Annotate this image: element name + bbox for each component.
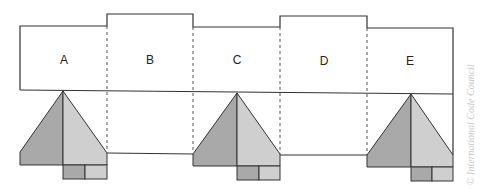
section-label-e: E — [406, 54, 414, 68]
copyright-credit: © International Code Council — [465, 64, 476, 185]
unit-c-shape — [193, 93, 280, 180]
lower-edge-b — [107, 153, 193, 154]
building-plan-diagram: A B C D E © International Code Council — [0, 0, 482, 190]
section-label-b: B — [146, 53, 154, 67]
section-label-c: C — [233, 53, 242, 67]
section-label-d: D — [320, 54, 329, 68]
section-label-a: A — [60, 53, 68, 67]
unit-e-shape — [367, 94, 453, 181]
unit-a-shape — [20, 91, 107, 179]
